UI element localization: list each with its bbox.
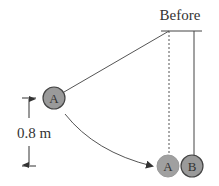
before-title: Before <box>160 7 201 23</box>
pendulum-diagram: Before A A B 0.8 m <box>0 0 219 186</box>
ball-a-label: A <box>49 91 59 106</box>
ball-a-initial: A <box>43 87 65 109</box>
height-label: 0.8 m <box>17 125 52 141</box>
ball-b: B <box>181 155 203 177</box>
height-dimension: 0.8 m <box>17 98 52 166</box>
swing-arc-arrow <box>65 114 152 166</box>
string-a <box>64 31 169 92</box>
ball-a-final: A <box>157 155 179 177</box>
ball-b-label: B <box>188 159 197 174</box>
ball-a-final-label: A <box>163 159 173 174</box>
